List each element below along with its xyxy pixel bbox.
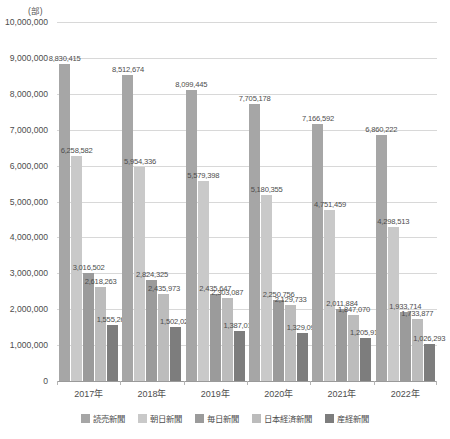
y-tick-label: 3,000,000	[10, 268, 54, 278]
y-tick-label: 2,000,000	[10, 304, 54, 314]
bar-group: 8,830,4156,258,5823,016,5022,618,2631,55…	[57, 22, 120, 381]
x-axis-label-text: 2018年	[137, 389, 166, 399]
x-tick-mark	[436, 381, 437, 385]
bar-産経新聞[interactable]: 1,026,293	[424, 344, 435, 381]
bar-朝日新聞[interactable]: 4,751,459	[324, 210, 335, 381]
bar-産経新聞[interactable]: 1,205,916	[360, 338, 371, 381]
bar-産経新聞[interactable]: 1,502,020	[170, 327, 181, 381]
bar-日本経済新聞[interactable]: 1,733,877	[412, 319, 423, 381]
bar-slot: 1,733,877	[412, 22, 423, 381]
bar-毎日新聞[interactable]: 3,016,502	[83, 273, 94, 381]
y-tick-label: 10,000,000	[5, 17, 54, 27]
bar-朝日新聞[interactable]: 5,180,355	[261, 195, 272, 381]
bar-読売新聞[interactable]: 7,166,592	[312, 124, 323, 381]
y-tick-label: 7,000,000	[10, 125, 54, 135]
y-axis-tick-labels: 10,000,0009,000,0008,000,0007,000,0006,0…	[0, 22, 54, 381]
x-tick-mark	[374, 381, 375, 385]
legend-swatch	[252, 414, 261, 423]
x-axis-label: 2021年	[310, 381, 373, 403]
bar-産経新聞[interactable]: 1,329,094	[297, 333, 308, 381]
bar-value-label: 1,026,293	[413, 334, 445, 343]
bar-日本経済新聞[interactable]: 1,847,070	[348, 315, 359, 381]
legend-item-読売新聞[interactable]: 読売新聞	[81, 412, 125, 424]
bar-slot: 1,026,293	[424, 22, 435, 381]
y-tick-label: 5,000,000	[10, 197, 54, 207]
bar-slot: 5,180,355	[261, 22, 272, 381]
bar-slot: 6,258,582	[71, 22, 82, 381]
bar-slot: 2,824,325	[146, 22, 157, 381]
chart-legend: 読売新聞朝日新聞毎日新聞日本経済新聞産経新聞	[0, 412, 450, 424]
bar-slot: 5,954,336	[134, 22, 145, 381]
y-tick-label: 9,000,000	[10, 53, 54, 63]
x-axis-label-text: 2019年	[201, 389, 230, 399]
bar-groups: 8,830,4156,258,5823,016,5022,618,2631,55…	[57, 22, 437, 381]
bar-読売新聞[interactable]: 7,705,178	[249, 104, 260, 381]
bar-slot: 1,329,094	[297, 22, 308, 381]
bar-slot: 5,579,398	[198, 22, 209, 381]
x-axis-label-text: 2020年	[264, 389, 293, 399]
bar-毎日新聞[interactable]: 1,933,714	[400, 312, 411, 381]
bar-slot: 2,435,973	[158, 22, 169, 381]
legend-swatch	[325, 414, 334, 423]
bar-group: 8,512,6745,954,3362,824,3252,435,9731,50…	[120, 22, 183, 381]
legend-item-毎日新聞[interactable]: 毎日新聞	[195, 412, 239, 424]
legend-label: 読売新聞	[93, 412, 125, 424]
bar-slot: 1,555,261	[107, 22, 118, 381]
bar-朝日新聞[interactable]: 5,579,398	[198, 181, 209, 381]
x-tick-mark	[184, 381, 185, 385]
bar-slot: 2,250,756	[273, 22, 284, 381]
x-axis-label: 2019年	[184, 381, 247, 403]
bar-slot: 4,298,513	[388, 22, 399, 381]
x-axis-label-text: 2017年	[74, 389, 103, 399]
bar-slot: 2,011,884	[336, 22, 347, 381]
legend-item-産経新聞[interactable]: 産経新聞	[325, 412, 369, 424]
x-tick-mark	[310, 381, 311, 385]
bar-毎日新聞[interactable]: 2,011,884	[336, 309, 347, 381]
bar-産経新聞[interactable]: 1,555,261	[107, 325, 118, 381]
bar-読売新聞[interactable]: 8,512,674	[122, 75, 133, 381]
bar-slot: 8,512,674	[122, 22, 133, 381]
x-axis-label: 2020年	[247, 381, 310, 403]
bar-slot: 2,435,647	[210, 22, 221, 381]
x-axis-label: 2018年	[120, 381, 183, 403]
x-axis-label-text: 2021年	[327, 389, 356, 399]
bar-毎日新聞[interactable]: 2,824,325	[146, 280, 157, 381]
bar-毎日新聞[interactable]: 2,435,647	[210, 294, 221, 381]
bar-slot: 1,387,011	[234, 22, 245, 381]
legend-item-朝日新聞[interactable]: 朝日新聞	[138, 412, 182, 424]
bar-slot: 8,099,445	[186, 22, 197, 381]
bar-slot: 6,860,222	[376, 22, 387, 381]
bar-group: 7,166,5924,751,4592,011,8841,847,0701,20…	[310, 22, 373, 381]
y-tick-label: 0	[43, 376, 54, 386]
bar-読売新聞[interactable]: 8,830,415	[59, 64, 70, 381]
bar-読売新聞[interactable]: 6,860,222	[376, 135, 387, 381]
bar-毎日新聞[interactable]: 2,250,756	[273, 300, 284, 381]
legend-item-日本経済新聞[interactable]: 日本経済新聞	[252, 412, 312, 424]
bar-slot: 7,705,178	[249, 22, 260, 381]
y-axis-unit-caption: (部)	[28, 4, 43, 16]
x-axis-label-text: 2022年	[391, 389, 420, 399]
legend-label: 朝日新聞	[150, 412, 182, 424]
x-tick-mark	[247, 381, 248, 385]
y-tick-label: 8,000,000	[10, 89, 54, 99]
bar-slot: 1,933,714	[400, 22, 411, 381]
y-tick-label: 4,000,000	[10, 232, 54, 242]
bar-産経新聞[interactable]: 1,387,011	[234, 331, 245, 381]
y-tick-label: 1,000,000	[10, 340, 54, 350]
legend-label: 毎日新聞	[207, 412, 239, 424]
bar-日本経済新聞[interactable]: 2,618,263	[95, 287, 106, 381]
bar-group: 8,099,4455,579,3982,435,6472,303,0871,38…	[184, 22, 247, 381]
legend-label: 産経新聞	[337, 412, 369, 424]
legend-swatch	[81, 414, 90, 423]
bar-日本経済新聞[interactable]: 2,435,973	[158, 294, 169, 381]
bar-読売新聞[interactable]: 8,099,445	[186, 90, 197, 381]
bar-日本経済新聞[interactable]: 2,129,733	[285, 305, 296, 381]
x-tick-mark	[57, 381, 58, 385]
bar-日本経済新聞[interactable]: 2,303,087	[222, 298, 233, 381]
bar-slot: 4,751,459	[324, 22, 335, 381]
x-axis-label: 2017年	[57, 381, 120, 403]
x-axis-category-labels: 2017年2018年2019年2020年2021年2022年	[57, 381, 437, 403]
bar-slot: 1,502,020	[170, 22, 181, 381]
newspaper-circulation-bar-chart: (部) 10,000,0009,000,0008,000,0007,000,00…	[0, 0, 450, 439]
bar-slot: 8,830,415	[59, 22, 70, 381]
